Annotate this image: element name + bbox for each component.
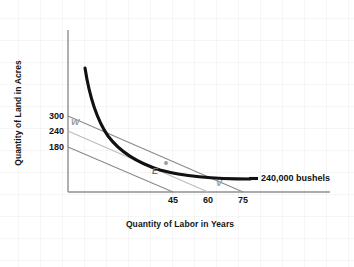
- x-tick-label-45: 45: [161, 195, 185, 205]
- annotation-label-e: E: [152, 166, 158, 176]
- y-tick-label-300: 300: [36, 111, 64, 121]
- y-tick-label-240: 240: [36, 126, 64, 136]
- x-axis-title: Quantity of Labor in Years: [100, 219, 260, 229]
- annotation-label-w: W: [71, 117, 80, 127]
- isoquant-curve-label: 240,000 bushels: [261, 173, 330, 183]
- point-marker-e: [164, 161, 168, 165]
- x-tick-label-75: 75: [231, 195, 255, 205]
- x-tick-label-60: 60: [196, 195, 220, 205]
- y-tick-label-180: 180: [36, 142, 64, 152]
- y-axis-title: Quantity of Land in Acres: [13, 48, 23, 178]
- annotation-label-v: V: [216, 178, 222, 188]
- chart-figure: Quantity of Land in Acres Quantity of La…: [0, 0, 354, 267]
